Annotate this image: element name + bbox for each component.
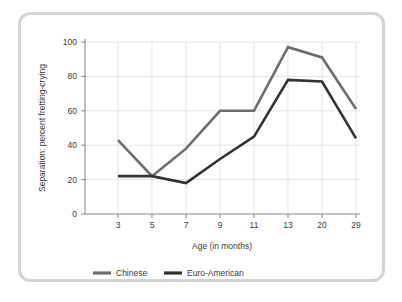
series-lines [118, 47, 356, 183]
x-tick-label-9: 9 [218, 220, 223, 230]
chart-container: 100 80 60 40 20 0 Separation: percent fr… [21, 15, 388, 285]
y-tick-label-80: 80 [68, 71, 78, 81]
x-axis-tick-labels: 3 5 7 9 11 13 20 29 [116, 220, 361, 230]
y-tick-label-40: 40 [68, 140, 78, 150]
x-tick-label-20: 20 [317, 220, 327, 230]
y-axis-tick-labels: 100 80 60 40 20 0 [63, 37, 77, 219]
figure-card: 100 80 60 40 20 0 Separation: percent fr… [18, 12, 385, 282]
gridlines-vertical [118, 42, 356, 214]
x-axis-title: Age (in months) [192, 241, 252, 251]
y-axis [81, 39, 85, 214]
y-tick-label-0: 0 [72, 209, 77, 219]
x-tick-label-13: 13 [283, 220, 293, 230]
x-tick-label-7: 7 [184, 220, 189, 230]
y-tick-label-20: 20 [68, 175, 78, 185]
x-tick-label-5: 5 [150, 220, 155, 230]
y-tick-label-60: 60 [68, 106, 78, 116]
x-tick-label-3: 3 [116, 220, 121, 230]
series-line-chinese [118, 47, 356, 176]
legend: Chinese Euro-American [93, 268, 244, 278]
legend-label-chinese: Chinese [116, 268, 147, 278]
legend-label-euro-american: Euro-American [187, 268, 244, 278]
y-axis-title: Separation: percent fretting-crying [37, 64, 47, 192]
y-tick-label-100: 100 [63, 37, 77, 47]
x-axis [85, 214, 360, 218]
x-tick-label-11: 11 [250, 220, 259, 230]
line-chart: 100 80 60 40 20 0 Separation: percent fr… [21, 15, 388, 285]
x-tick-label-29: 29 [351, 220, 361, 230]
series-line-euro-american [118, 80, 356, 183]
